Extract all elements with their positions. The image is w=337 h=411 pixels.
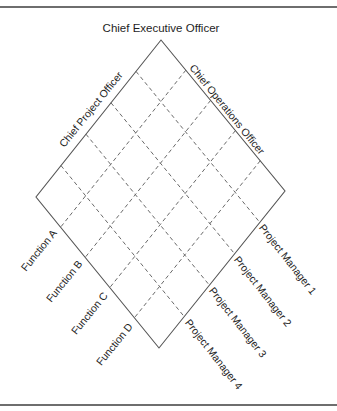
ceo-title: Chief Executive Officer bbox=[0, 22, 322, 34]
matrix-diamond bbox=[0, 0, 337, 411]
grid-line bbox=[134, 161, 260, 318]
grid-line bbox=[110, 131, 236, 288]
grid-line bbox=[61, 166, 184, 317]
grid-line bbox=[85, 100, 210, 257]
grid-line bbox=[136, 71, 260, 222]
grid-line bbox=[111, 103, 235, 254]
grid-line bbox=[61, 70, 186, 227]
diamond-outline bbox=[36, 40, 285, 348]
grid-line bbox=[86, 134, 209, 285]
